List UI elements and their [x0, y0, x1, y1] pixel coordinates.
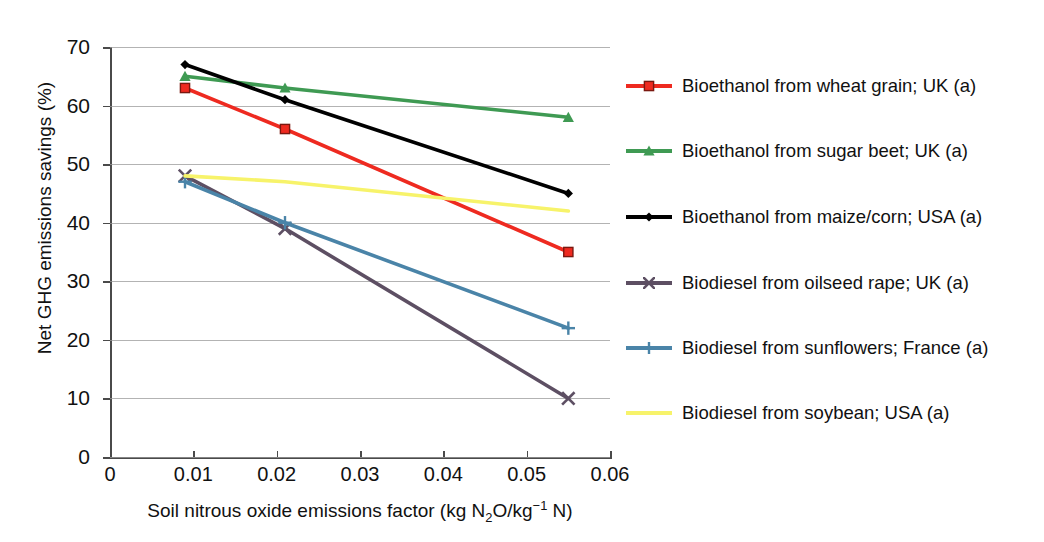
data-point-marker-plus [643, 342, 655, 354]
x-axis-title-before: Soil nitrous oxide emissions factor (kg … [147, 500, 485, 521]
data-point-marker-square [564, 247, 573, 256]
data-point-marker-plus [562, 321, 575, 334]
legend-marker-triangle-icon [643, 145, 655, 157]
data-point-marker-triangle [643, 145, 654, 155]
legend-swatch-icon [626, 272, 672, 294]
legend-item-label: Biodiesel from sunflowers; France (a) [682, 337, 988, 359]
y-axis-title: Net GHG emissions savings (%) [34, 13, 56, 423]
x-axis-tick-label: 0.06 [570, 464, 650, 484]
x-axis-title-mid: O/kg [492, 500, 532, 521]
legend-marker-x-icon [643, 277, 655, 289]
legend-swatch-icon [626, 402, 672, 424]
x-axis-tick-label: 0.01 [153, 464, 233, 484]
legend-swatch-icon [626, 206, 672, 228]
y-axis-tick-label: 70 [50, 36, 90, 57]
data-point-marker-square [644, 81, 653, 90]
y-axis-tick-label: 60 [50, 95, 90, 116]
legend-item[interactable]: Biodiesel from sunflowers; France (a) [626, 335, 988, 361]
legend-item[interactable]: Bioethanol from sugar beet; UK (a) [626, 138, 968, 164]
x-axis-title-superscript: −1 [533, 498, 548, 513]
plot-area [110, 47, 610, 457]
data-point-marker-x [562, 392, 574, 404]
legend-item[interactable]: Biodiesel from soybean; USA (a) [626, 400, 949, 426]
series-line [185, 176, 568, 399]
y-axis-tick-label: 50 [50, 153, 90, 174]
legend-item[interactable]: Bioethanol from wheat grain; UK (a) [626, 73, 976, 99]
legend-line-icon [626, 411, 672, 415]
x-axis-tick-mark [610, 451, 612, 459]
legend-swatch-icon [626, 337, 672, 359]
y-axis-tick-label: 20 [50, 329, 90, 350]
legend-item-label: Bioethanol from wheat grain; UK (a) [682, 75, 976, 97]
x-axis-title-after: N) [547, 500, 572, 521]
chart-figure: 010203040506070 00.010.020.030.040.050.0… [0, 0, 1044, 542]
chart-legend: Bioethanol from wheat grain; UK (a)Bioet… [626, 47, 1038, 447]
x-axis-tick-label: 0.02 [237, 464, 317, 484]
x-axis-tick-label: 0.03 [320, 464, 400, 484]
data-point-marker-diamond [180, 60, 189, 69]
legend-marker-plus-icon [643, 342, 655, 354]
x-axis-tick-label: 0.05 [487, 464, 567, 484]
legend-item-label: Biodiesel from oilseed rape; UK (a) [682, 272, 969, 294]
data-point-marker-diamond [564, 189, 573, 198]
series-lines [110, 47, 610, 457]
legend-item-label: Biodiesel from soybean; USA (a) [682, 402, 949, 424]
legend-item[interactable]: Bioethanol from maize/corn; USA (a) [626, 204, 982, 230]
data-point-marker-square [180, 83, 189, 92]
x-axis-tick-label: 0.04 [403, 464, 483, 484]
y-axis-tick-label: 30 [50, 270, 90, 291]
y-axis-tick-label: 40 [50, 212, 90, 233]
legend-item-label: Bioethanol from maize/corn; USA (a) [682, 206, 982, 228]
x-axis-tick-label: 0 [70, 464, 150, 484]
legend-item[interactable]: Biodiesel from oilseed rape; UK (a) [626, 270, 969, 296]
data-point-marker-diamond [280, 95, 289, 104]
legend-swatch-icon [626, 75, 672, 97]
legend-marker-square-icon [643, 80, 655, 92]
data-point-marker-square [280, 124, 289, 133]
y-axis-tick-label: 10 [50, 387, 90, 408]
legend-marker-diamond-icon [643, 211, 655, 223]
legend-swatch-icon [626, 140, 672, 162]
gridline [110, 457, 610, 458]
series-line [185, 65, 568, 194]
data-point-marker-x [643, 277, 655, 289]
legend-item-label: Bioethanol from sugar beet; UK (a) [682, 140, 968, 162]
data-point-marker-diamond [644, 212, 653, 221]
x-axis-title: Soil nitrous oxide emissions factor (kg … [110, 495, 610, 529]
